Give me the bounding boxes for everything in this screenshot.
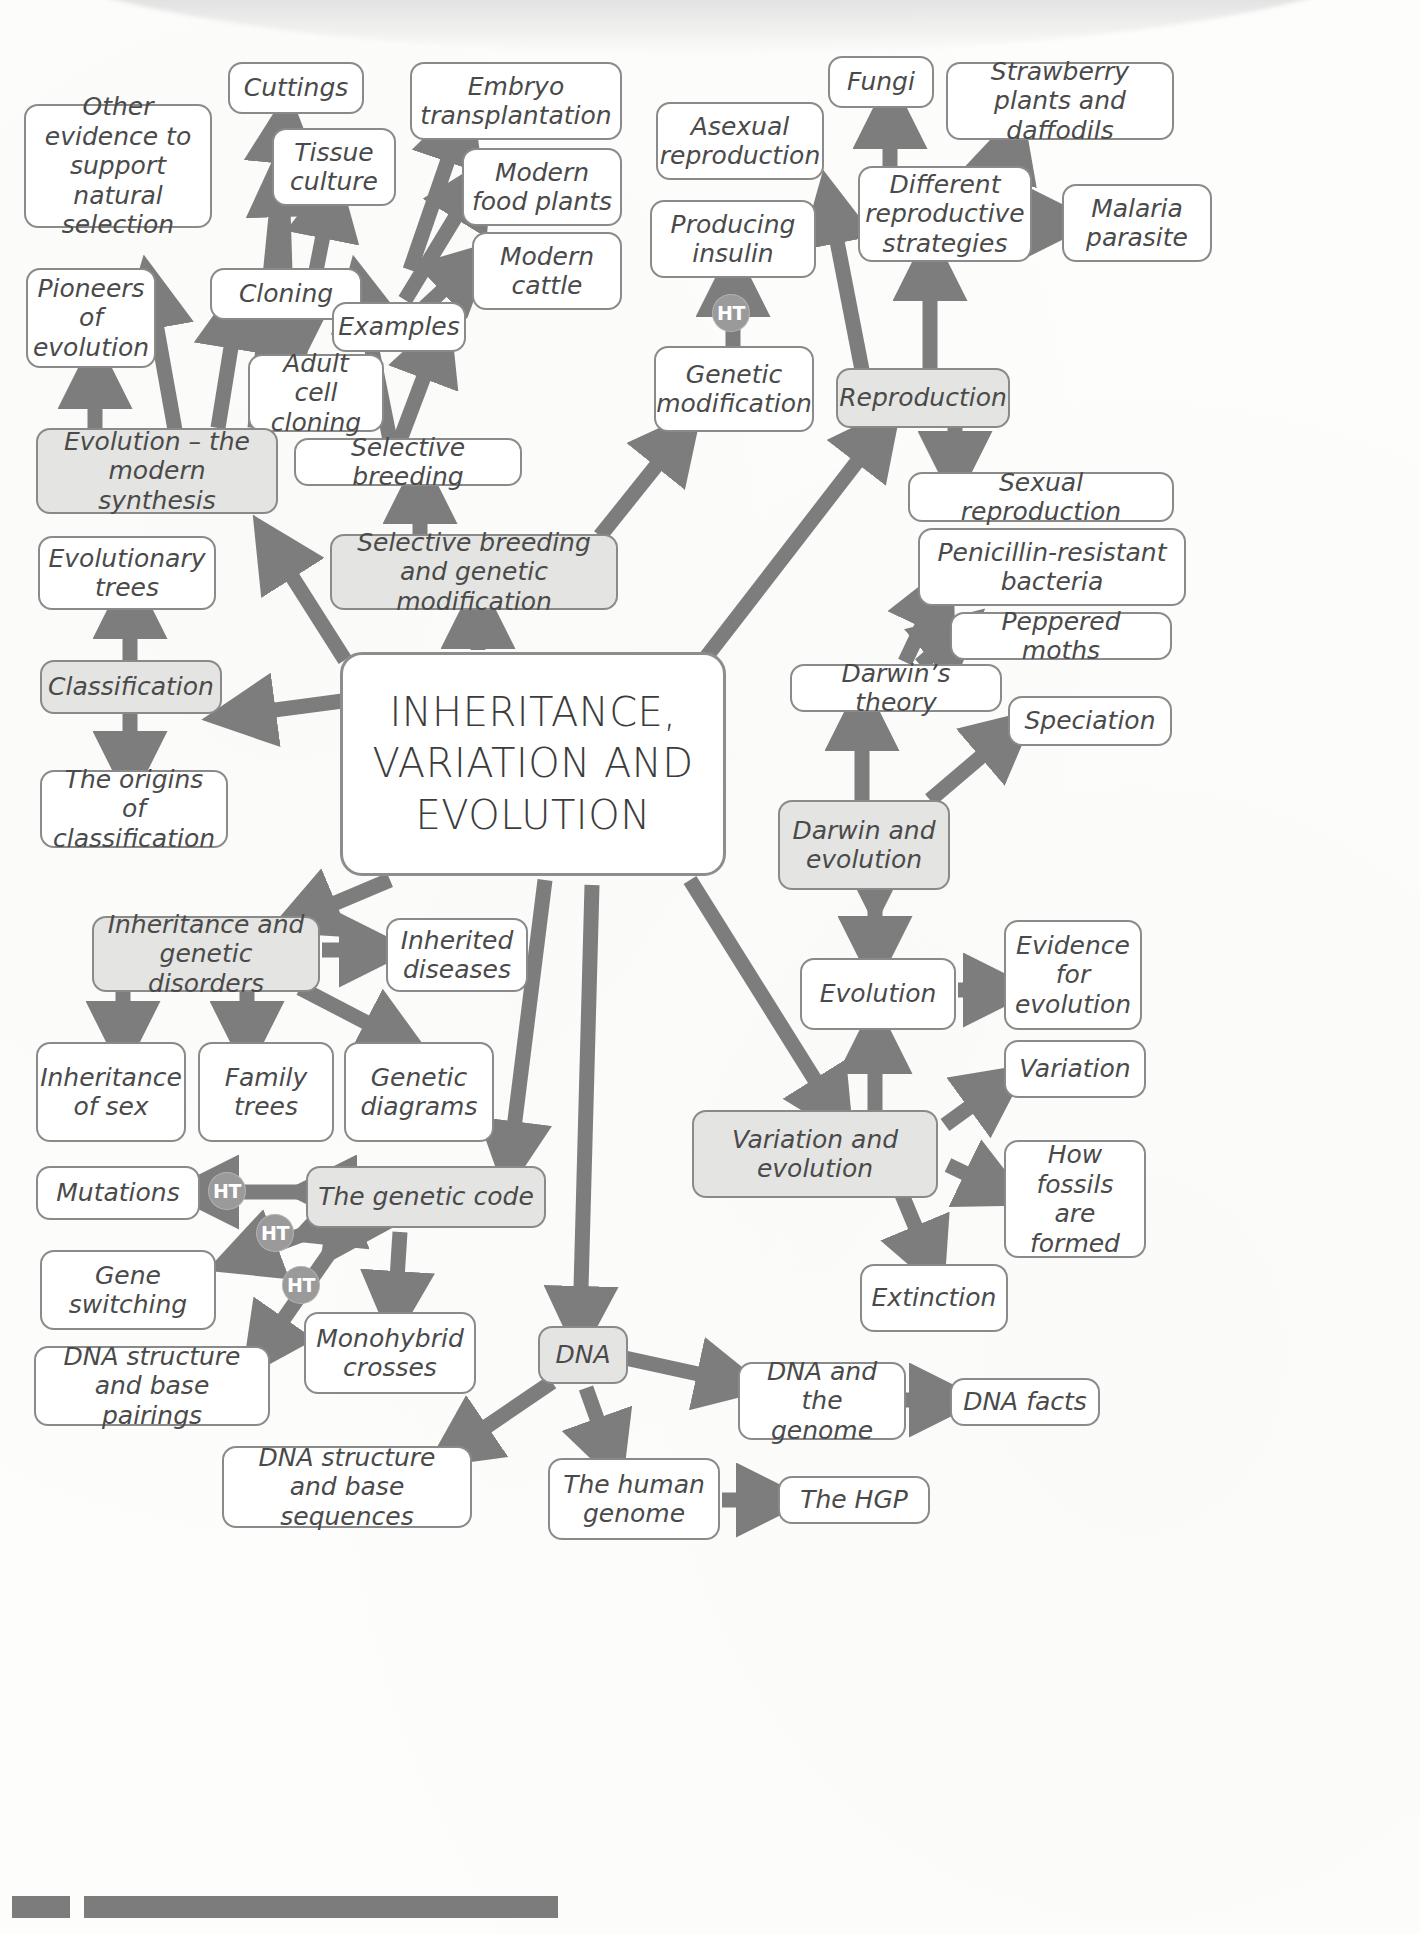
page-title: INHERITANCE, VARIATION AND EVOLUTION: [351, 687, 715, 841]
node-label: Darwin and evolution: [788, 816, 940, 875]
node-penicillin-resistant-bacteria[interactable]: Penicillin-resistant bacteria: [918, 528, 1186, 606]
node-the-hgp[interactable]: The HGP: [778, 1476, 930, 1524]
node-asexual-reproduction[interactable]: Asexual reproduction: [656, 102, 824, 180]
node-label: Speciation: [1024, 706, 1155, 736]
node-how-fossils-are-formed[interactable]: How fossils are formed: [1004, 1140, 1146, 1258]
node-evidence-for-evolution[interactable]: Evidence for evolution: [1004, 920, 1142, 1030]
node-inheritance-and-genetic-disorders[interactable]: Inheritance and genetic disorders: [92, 916, 320, 992]
node-reproduction[interactable]: Reproduction: [836, 368, 1010, 428]
node-label: DNA structure and base sequences: [232, 1443, 462, 1532]
node-label: Variation and evolution: [702, 1125, 928, 1184]
node-tissue-culture[interactable]: Tissue culture: [272, 128, 396, 206]
node-label: Peppered moths: [960, 607, 1162, 666]
node-label: Other evidence to support natural select…: [34, 92, 202, 240]
node-dna-structure-and-base-sequences[interactable]: DNA structure and base sequences: [222, 1446, 472, 1528]
node-label: Fungi: [847, 67, 915, 97]
node-speciation[interactable]: Speciation: [1008, 696, 1172, 746]
node-label: The human genome: [558, 1470, 710, 1529]
node-evolution-modern-synthesis[interactable]: Evolution – the modern synthesis: [36, 428, 278, 514]
node-label: Classification: [48, 672, 214, 702]
node-sexual-reproduction[interactable]: Sexual reproduction: [908, 472, 1174, 522]
node-genetic-modification[interactable]: Genetic modification: [654, 346, 814, 432]
node-selective-breeding-and-genetic-modification[interactable]: Selective breeding and genetic modificat…: [330, 534, 618, 610]
node-cuttings[interactable]: Cuttings: [228, 62, 364, 114]
node-label: Embryo transplantation: [420, 72, 612, 131]
node-evolutionary-trees[interactable]: Evolutionary trees: [38, 536, 216, 610]
node-genetic-diagrams[interactable]: Genetic diagrams: [344, 1042, 494, 1142]
footer-bar-left: [12, 1896, 70, 1918]
node-variation-and-evolution[interactable]: Variation and evolution: [692, 1110, 938, 1198]
node-adult-cell-cloning[interactable]: Adult cell cloning: [248, 354, 384, 432]
node-producing-insulin[interactable]: Producing insulin: [650, 200, 816, 278]
node-label: Evolution: [820, 979, 937, 1009]
node-the-human-genome[interactable]: The human genome: [548, 1458, 720, 1540]
node-label: Extinction: [872, 1283, 997, 1313]
node-label: The genetic code: [318, 1182, 534, 1212]
node-label: DNA facts: [963, 1387, 1087, 1417]
node-strawberry-daffodils[interactable]: Strawberry plants and daffodils: [946, 62, 1174, 140]
node-label: DNA and the genome: [748, 1357, 896, 1446]
node-extinction[interactable]: Extinction: [860, 1264, 1008, 1332]
node-label: Inherited diseases: [396, 926, 518, 985]
node-label: Different reproductive strategies: [865, 170, 1024, 259]
node-inheritance-of-sex[interactable]: Inheritance of sex: [36, 1042, 186, 1142]
node-label: How fossils are formed: [1014, 1140, 1136, 1258]
node-the-genetic-code[interactable]: The genetic code: [306, 1166, 546, 1228]
node-embryo-transplantation[interactable]: Embryo transplantation: [410, 62, 622, 140]
node-origins-of-classification[interactable]: The origins of classification: [40, 770, 228, 848]
node-label: Reproduction: [839, 383, 1007, 413]
node-family-trees[interactable]: Family trees: [198, 1042, 334, 1142]
node-examples[interactable]: Examples: [332, 302, 466, 352]
node-label: Adult cell cloning: [258, 349, 374, 438]
node-evolution[interactable]: Evolution: [800, 958, 956, 1030]
node-dna[interactable]: DNA: [538, 1326, 628, 1384]
node-label: Examples: [338, 312, 459, 342]
node-different-reproductive-strategies[interactable]: Different reproductive strategies: [858, 166, 1032, 262]
node-label: Gene switching: [50, 1261, 206, 1320]
node-other-evidence[interactable]: Other evidence to support natural select…: [24, 104, 212, 228]
node-classification[interactable]: Classification: [40, 660, 222, 714]
node-label: Genetic modification: [656, 360, 812, 419]
node-label: Evidence for evolution: [1014, 931, 1132, 1020]
node-label: Tissue culture: [282, 138, 386, 197]
node-monohybrid-crosses[interactable]: Monohybrid crosses: [304, 1312, 476, 1394]
node-label: Monohybrid crosses: [314, 1324, 466, 1383]
node-label: DNA structure and base pairings: [44, 1342, 260, 1431]
node-label: Modern cattle: [482, 242, 612, 301]
node-label: Asexual reproduction: [660, 112, 820, 171]
node-darwin-and-evolution[interactable]: Darwin and evolution: [778, 800, 950, 890]
node-label: Evolutionary trees: [48, 544, 206, 603]
node-inherited-diseases[interactable]: Inherited diseases: [386, 918, 528, 992]
node-peppered-moths[interactable]: Peppered moths: [950, 612, 1172, 660]
node-malaria-parasite[interactable]: Malaria parasite: [1062, 184, 1212, 262]
node-fungi[interactable]: Fungi: [828, 56, 934, 108]
node-label: Pioneers of evolution: [33, 274, 149, 363]
node-dna-facts[interactable]: DNA facts: [950, 1378, 1100, 1426]
mind-map-canvas: Other evidence to support natural select…: [0, 0, 1420, 1934]
node-variation[interactable]: Variation: [1004, 1040, 1146, 1098]
node-modern-food-plants[interactable]: Modern food plants: [462, 148, 622, 226]
center-topic-inheritance-variation-evolution[interactable]: INHERITANCE, VARIATION AND EVOLUTION: [340, 652, 726, 876]
node-label: Darwin’s theory: [800, 659, 992, 718]
node-label: Inheritance of sex: [40, 1063, 182, 1122]
node-label: The origins of classification: [50, 765, 218, 854]
node-label: DNA: [555, 1340, 610, 1370]
node-label: Cuttings: [244, 73, 349, 103]
node-label: Malaria parasite: [1072, 194, 1202, 253]
footer-bar-main: [84, 1896, 558, 1918]
node-selective-breeding[interactable]: Selective breeding: [294, 438, 522, 486]
node-dna-structure-and-base-pairings[interactable]: DNA structure and base pairings: [34, 1346, 270, 1426]
node-pioneers-of-evolution[interactable]: Pioneers of evolution: [26, 268, 156, 368]
node-label: Selective breeding and genetic modificat…: [340, 528, 608, 617]
ht-badge-icon-insulin: HT: [712, 294, 750, 332]
node-label: Selective breeding: [304, 433, 512, 492]
node-dna-and-the-genome[interactable]: DNA and the genome: [738, 1362, 906, 1440]
node-label: Mutations: [56, 1178, 179, 1208]
node-gene-switching[interactable]: Gene switching: [40, 1250, 216, 1330]
node-darwins-theory[interactable]: Darwin’s theory: [790, 664, 1002, 712]
node-mutations[interactable]: Mutations: [36, 1166, 200, 1220]
node-modern-cattle[interactable]: Modern cattle: [472, 232, 622, 310]
node-label: Modern food plants: [472, 158, 612, 217]
node-label: Producing insulin: [660, 210, 806, 269]
node-label: The HGP: [800, 1485, 908, 1515]
